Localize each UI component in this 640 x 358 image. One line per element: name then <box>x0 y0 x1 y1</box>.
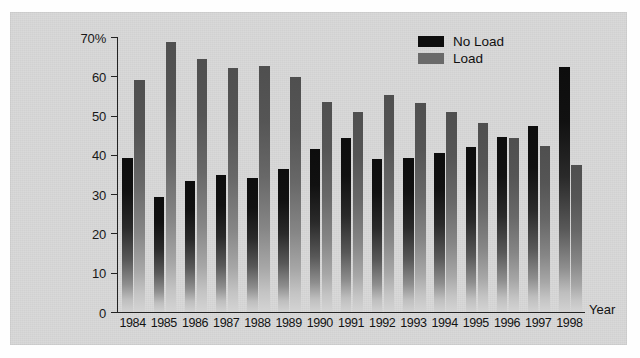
bar-no-load-1989 <box>278 169 289 312</box>
x-tick-label-1991: 1991 <box>335 316 366 330</box>
bar-no-load-1986 <box>185 181 196 312</box>
bar-load-1989 <box>290 77 301 312</box>
bar-load-1992 <box>384 95 395 312</box>
x-tick-label-1996: 1996 <box>491 316 522 330</box>
bar-load-1997 <box>540 146 551 312</box>
bar-no-load-1985 <box>154 197 165 312</box>
x-tick-label-1989: 1989 <box>273 316 304 330</box>
x-tick-label-1987: 1987 <box>211 316 242 330</box>
bar-no-load-1994 <box>434 153 445 312</box>
bar-load-1988 <box>259 66 270 312</box>
bar-load-1998 <box>571 165 582 312</box>
bar-no-load-1996 <box>497 137 508 312</box>
x-tick-label-1985: 1985 <box>148 316 179 330</box>
legend-label-load: Load <box>453 51 483 66</box>
legend-item-no-load: No Load <box>418 33 504 50</box>
bar-load-1995 <box>478 123 489 312</box>
x-tick-label-1995: 1995 <box>460 316 491 330</box>
bar-no-load-1990 <box>310 149 321 312</box>
bar-no-load-1993 <box>403 158 414 312</box>
bar-load-1990 <box>322 102 333 312</box>
legend-label-no-load: No Load <box>453 34 504 49</box>
bars-layer <box>0 0 640 358</box>
bar-load-1993 <box>415 103 426 312</box>
bar-no-load-1997 <box>528 126 539 312</box>
x-tick-label-1984: 1984 <box>117 316 148 330</box>
x-tick-label-1994: 1994 <box>429 316 460 330</box>
bar-load-1996 <box>509 138 520 312</box>
bar-load-1994 <box>446 112 457 312</box>
bar-load-1984 <box>134 80 145 312</box>
figure-canvas: 010203040506070% 19841985198619871988198… <box>0 0 640 358</box>
legend-swatch-no-load-icon <box>418 36 444 47</box>
bar-no-load-1992 <box>372 159 383 312</box>
x-axis-title: Year <box>589 302 615 317</box>
x-tick-label-1990: 1990 <box>304 316 335 330</box>
bar-no-load-1991 <box>341 138 352 312</box>
bar-no-load-1998 <box>559 67 570 312</box>
x-tick-label-1992: 1992 <box>367 316 398 330</box>
bar-load-1986 <box>197 59 208 312</box>
x-tick-label-1998: 1998 <box>554 316 585 330</box>
bar-load-1985 <box>166 42 177 312</box>
bar-load-1987 <box>228 68 239 312</box>
bar-no-load-1995 <box>466 147 477 312</box>
x-tick-label-1988: 1988 <box>242 316 273 330</box>
chart-legend: No Load Load <box>418 33 504 67</box>
x-tick-label-1997: 1997 <box>523 316 554 330</box>
x-tick-label-1986: 1986 <box>179 316 210 330</box>
bar-no-load-1987 <box>216 175 227 313</box>
bar-no-load-1984 <box>122 158 133 312</box>
bar-no-load-1988 <box>247 178 258 312</box>
x-tick-label-1993: 1993 <box>398 316 429 330</box>
legend-item-load: Load <box>418 50 504 67</box>
bar-load-1991 <box>353 112 364 312</box>
legend-swatch-load-icon <box>418 53 444 64</box>
